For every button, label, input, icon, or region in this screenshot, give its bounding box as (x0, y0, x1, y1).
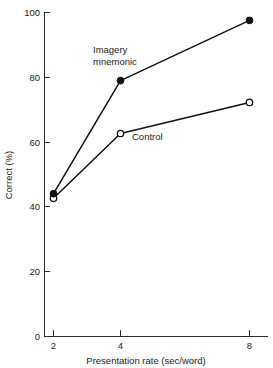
y-tick-label-40: 40 (29, 201, 40, 212)
data-point-imagery-2 (50, 190, 57, 197)
series-imagery-mnemonic-line (54, 20, 250, 193)
series-imagery-mnemonic (50, 17, 253, 197)
y-tick-labels: 100 80 60 40 20 0 (24, 7, 40, 342)
annotation-imagery-mnemonic: Imagery mnemonic (93, 44, 137, 67)
chart-figure: 100 80 60 40 20 0 2 4 8 Presentation rat… (0, 0, 273, 368)
y-tick-label-80: 80 (29, 72, 40, 83)
data-point-imagery-8 (246, 17, 253, 24)
y-tick-marks (45, 13, 51, 272)
data-point-control-8 (246, 99, 252, 105)
x-tick-marks (54, 330, 250, 337)
y-tick-label-0: 0 (35, 331, 40, 342)
chart-canvas: 100 80 60 40 20 0 2 4 8 Presentation rat… (0, 0, 273, 368)
y-tick-label-20: 20 (29, 266, 40, 277)
series-control-line (54, 102, 250, 198)
x-axis-title: Presentation rate (sec/word) (86, 355, 205, 366)
x-tick-labels: 2 4 8 (51, 340, 252, 351)
data-point-imagery-4 (117, 77, 124, 84)
annotation-imagery-line1: Imagery (93, 44, 128, 55)
annotation-imagery-line2: mnemonic (93, 56, 137, 67)
data-point-control-4 (117, 130, 123, 136)
annotation-control-label: Control (132, 131, 163, 142)
x-tick-label-2: 2 (51, 340, 56, 351)
series-control (50, 99, 252, 201)
y-axis-title: Correct (%) (3, 151, 14, 200)
y-tick-label-100: 100 (24, 7, 40, 18)
annotation-control: Control (132, 131, 163, 142)
x-tick-label-8: 8 (247, 340, 252, 351)
x-tick-label-4: 4 (118, 340, 123, 351)
y-tick-label-60: 60 (29, 137, 40, 148)
